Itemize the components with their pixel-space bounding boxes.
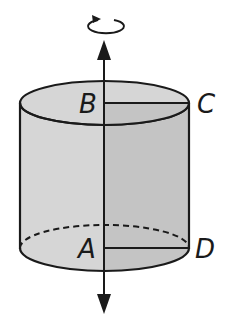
- rectangle-abcd-region: [104, 103, 189, 271]
- label-d: D: [195, 234, 215, 264]
- arrow-down-icon: [97, 294, 111, 314]
- label-b: B: [79, 89, 97, 119]
- label-a: A: [76, 234, 96, 264]
- label-c: C: [197, 89, 216, 119]
- rotation-arrow-icon: [88, 15, 124, 33]
- cylinder-diagram: B C A D: [0, 0, 233, 334]
- arrow-up-icon: [97, 40, 111, 60]
